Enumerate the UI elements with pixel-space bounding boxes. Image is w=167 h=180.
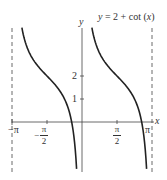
x-tick-label-pi: π <box>145 125 150 135</box>
x-tick-label-neg-pi: −π <box>8 125 19 135</box>
cot-branch-right <box>92 28 147 169</box>
y-tick-label-1: 1 <box>72 94 77 104</box>
y-tick-label-2: 2 <box>72 71 77 81</box>
cotangent-plot <box>0 0 167 180</box>
x-tick-label-half-pi: π 2 <box>113 125 121 146</box>
y-axis-label: y <box>79 17 83 27</box>
x-axis-label: x <box>155 116 159 126</box>
x-tick-label-neg-half-pi: − π 2 <box>40 125 48 146</box>
cot-branch-left <box>22 28 77 169</box>
chart-title: y = 2 + cot (x) <box>98 12 155 22</box>
